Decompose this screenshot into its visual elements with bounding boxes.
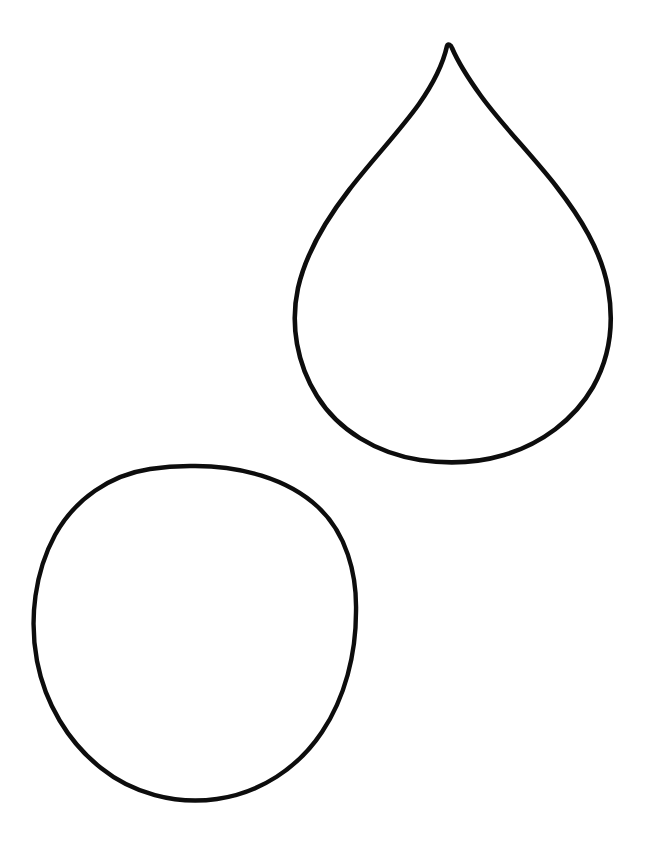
drawing-canvas xyxy=(0,0,655,847)
line-art-svg xyxy=(0,0,655,847)
